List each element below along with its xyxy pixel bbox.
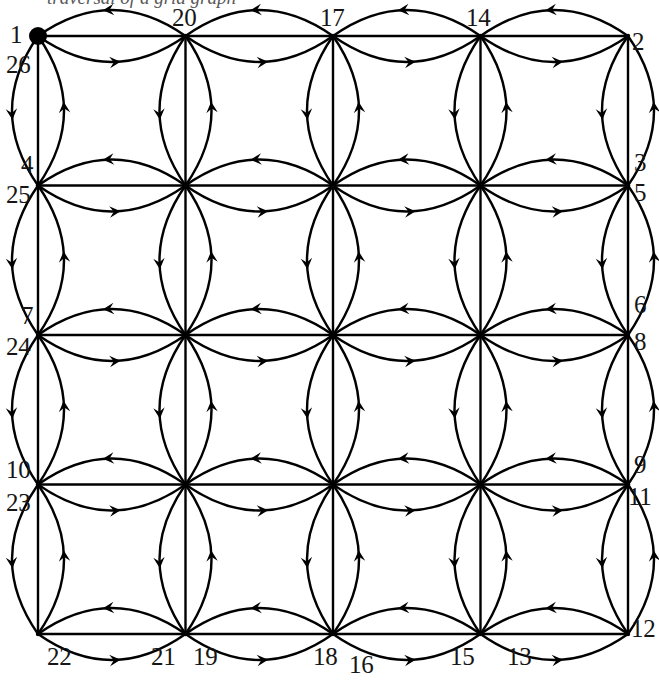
graph-node — [478, 333, 482, 337]
node-label-14: 14 — [466, 5, 491, 30]
node-label-1: 1 — [10, 22, 22, 47]
node-label-10: 10 — [6, 457, 31, 482]
graph-figure: traversal of a grid graph 12620171424253… — [0, 0, 659, 684]
node-label-3: 3 — [634, 150, 646, 175]
node-label-25: 25 — [6, 182, 31, 207]
grid-graph-svg — [0, 0, 659, 684]
graph-node — [478, 34, 482, 38]
graph-node — [183, 183, 187, 187]
graph-node — [626, 333, 630, 337]
graph-node — [36, 482, 40, 486]
start-node-dot — [29, 27, 47, 45]
node-label-15: 15 — [450, 644, 475, 669]
node-label-12: 12 — [631, 616, 656, 641]
graph-node — [36, 183, 40, 187]
graph-node — [183, 34, 187, 38]
graph-node — [183, 333, 187, 337]
graph-node — [331, 183, 335, 187]
node-label-11: 11 — [628, 484, 652, 509]
node-label-9: 9 — [634, 452, 646, 477]
graph-node — [626, 183, 630, 187]
graph-node — [478, 482, 482, 486]
node-label-24: 24 — [6, 334, 31, 359]
node-label-20: 20 — [172, 5, 197, 30]
graph-node — [478, 183, 482, 187]
graph-node — [36, 632, 40, 636]
graph-node — [478, 632, 482, 636]
node-label-17: 17 — [320, 5, 345, 30]
graph-node — [331, 482, 335, 486]
graph-node — [626, 632, 630, 636]
node-label-13: 13 — [507, 644, 532, 669]
node-label-16: 16 — [349, 652, 374, 677]
graph-node — [331, 333, 335, 337]
node-label-5: 5 — [634, 180, 646, 205]
node-label-6: 6 — [634, 292, 646, 317]
node-label-23: 23 — [6, 490, 31, 515]
node-label-21: 21 — [151, 644, 176, 669]
node-label-18: 18 — [313, 644, 338, 669]
node-label-26: 26 — [6, 52, 31, 77]
graph-node — [183, 632, 187, 636]
node-label-2: 2 — [632, 29, 644, 54]
graph-node — [626, 34, 630, 38]
node-label-22: 22 — [47, 644, 72, 669]
graph-node — [183, 482, 187, 486]
node-label-19: 19 — [193, 644, 218, 669]
graph-node — [36, 333, 40, 337]
node-label-8: 8 — [634, 329, 646, 354]
graph-node — [331, 632, 335, 636]
graph-node — [331, 34, 335, 38]
node-label-4: 4 — [21, 152, 33, 177]
node-label-7: 7 — [21, 303, 33, 328]
